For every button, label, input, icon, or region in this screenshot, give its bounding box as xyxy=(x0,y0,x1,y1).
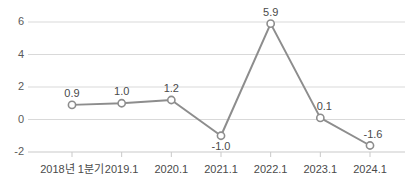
xtick-label-1: 2019.1 xyxy=(105,163,139,175)
point-label-6: -1.6 xyxy=(364,129,383,140)
point-label-0: 0.9 xyxy=(64,88,79,99)
plot-area: 6 4 2 0 -2 0.9 1.0 1.2 -1.0 5.9 0.1 -1.6… xyxy=(0,0,409,184)
point-label-5: 0.1 xyxy=(317,101,332,112)
point-label-2: 1.2 xyxy=(164,83,179,94)
xtick-label-2: 2020.1 xyxy=(155,163,189,175)
ytick-label-2: 2 xyxy=(2,81,24,92)
point-label-4: 5.9 xyxy=(263,7,278,18)
ytick-label--2: -2 xyxy=(2,146,24,157)
point-label-1: 1.0 xyxy=(114,86,129,97)
ytick-label-6: 6 xyxy=(2,16,24,27)
data-point-4 xyxy=(267,20,274,27)
xtick-label-6: 2024.1 xyxy=(353,163,387,175)
ytick-label-0: 0 xyxy=(2,114,24,125)
data-point-1 xyxy=(118,100,125,107)
ytick-label-4: 4 xyxy=(2,49,24,60)
data-point-2 xyxy=(168,96,175,103)
x-axis xyxy=(28,152,405,157)
chart-canvas xyxy=(0,0,409,184)
point-label-3: -1.0 xyxy=(212,141,231,152)
data-point-3 xyxy=(217,132,224,139)
data-point-6 xyxy=(366,142,373,149)
data-point-5 xyxy=(317,114,324,121)
xtick-label-5: 2023.1 xyxy=(304,163,338,175)
xtick-label-3: 2021.1 xyxy=(204,163,238,175)
data-point-0 xyxy=(68,101,75,108)
line-chart: 6 4 2 0 -2 0.9 1.0 1.2 -1.0 5.9 0.1 -1.6… xyxy=(0,0,409,184)
xtick-label-0: 2018년 1분기 xyxy=(40,163,104,175)
xtick-label-4: 2022.1 xyxy=(254,163,288,175)
